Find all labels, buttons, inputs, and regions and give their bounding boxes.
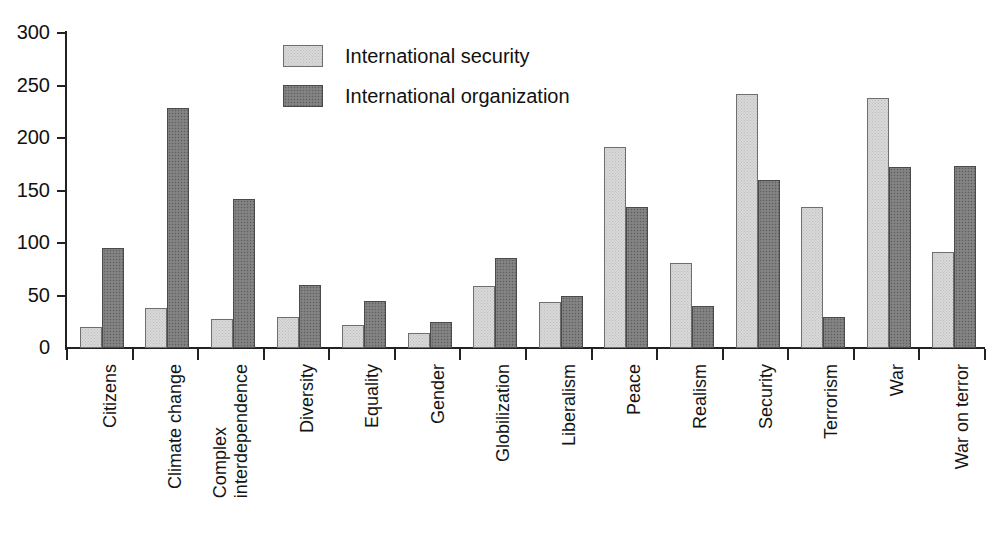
x-tick-mark <box>787 349 789 360</box>
bar <box>670 263 692 348</box>
x-category-label: Equality <box>362 364 382 428</box>
y-tick-mark <box>57 32 66 34</box>
x-tick-mark <box>656 349 658 360</box>
bar <box>604 147 626 348</box>
x-tick-mark <box>263 349 265 360</box>
x-tick-mark <box>66 349 68 360</box>
y-tick-label: 100 <box>2 232 50 252</box>
y-tick-label: 300 <box>2 22 50 42</box>
x-tick-mark <box>328 349 330 360</box>
x-category-label: Peace <box>624 364 644 415</box>
bar <box>495 258 517 348</box>
bar <box>342 325 364 348</box>
x-category-label-line: Globilization <box>493 364 513 462</box>
bar <box>430 322 452 348</box>
x-category-label-line: Peace <box>624 364 644 415</box>
bar <box>277 317 299 349</box>
x-category-label-line: Citizens <box>100 364 120 428</box>
legend-label-international-security: International security <box>345 45 530 67</box>
x-category-label-line: War on terror <box>952 364 972 469</box>
x-category-label-line: Realism <box>690 364 710 429</box>
x-category-label: Globilization <box>493 364 513 462</box>
x-category-label: War on terror <box>952 364 972 469</box>
x-category-label: Security <box>756 364 776 429</box>
bar <box>889 167 911 348</box>
x-category-label-line: Liberalism <box>559 364 579 446</box>
bar <box>364 301 386 348</box>
x-category-label-line: Security <box>756 364 776 429</box>
x-category-label-line: War <box>887 364 907 396</box>
chart-legend: International security International org… <box>283 41 613 121</box>
x-tick-mark <box>984 349 986 360</box>
bar <box>932 252 954 348</box>
x-category-label-line: Equality <box>362 364 382 428</box>
x-tick-mark <box>853 349 855 360</box>
y-tick-label: 50 <box>2 285 50 305</box>
bar <box>539 302 561 348</box>
bar <box>954 166 976 348</box>
y-tick-mark <box>57 295 66 297</box>
x-category-label-line: Terrorism <box>821 364 841 439</box>
y-tick-label: 200 <box>2 127 50 147</box>
bar <box>102 248 124 348</box>
bar <box>867 98 889 348</box>
y-tick-mark <box>57 190 66 192</box>
x-category-label: Climate change <box>165 364 185 489</box>
bar <box>801 207 823 348</box>
y-tick-label: 150 <box>2 180 50 200</box>
y-axis-tick-labels: 050100150200250300 <box>0 0 50 535</box>
bar <box>473 286 495 348</box>
x-tick-mark <box>132 349 134 360</box>
bar <box>211 319 233 348</box>
bar <box>145 308 167 348</box>
y-tick-mark <box>57 137 66 139</box>
legend-label-international-organization: International organization <box>345 85 570 107</box>
x-tick-mark <box>525 349 527 360</box>
bar <box>167 108 189 348</box>
bar <box>233 199 255 348</box>
x-category-label: Gender <box>428 364 448 424</box>
x-category-label-line: Gender <box>428 364 448 424</box>
bar-chart: 050100150200250300 CitizensClimate chang… <box>0 0 1000 535</box>
x-tick-mark <box>197 349 199 360</box>
bar <box>736 94 758 348</box>
x-category-label: Realism <box>690 364 710 429</box>
x-category-label: War <box>887 364 907 396</box>
bar <box>626 207 648 348</box>
x-category-label: Diversity <box>297 364 317 433</box>
x-category-label-line: Diversity <box>297 364 317 433</box>
bar <box>823 317 845 349</box>
x-category-label-line: Climate change <box>165 364 185 489</box>
y-tick-mark <box>57 85 66 87</box>
bar <box>299 285 321 348</box>
legend-swatch-international-organization <box>283 85 323 107</box>
bar <box>408 333 430 348</box>
x-category-label-line: Complex <box>210 427 230 498</box>
x-tick-mark <box>591 349 593 360</box>
x-tick-mark <box>394 349 396 360</box>
x-tick-mark <box>918 349 920 360</box>
x-category-label: Terrorism <box>821 364 841 439</box>
x-category-label: Complexinterdependence <box>210 364 252 498</box>
x-category-label-line: interdependence <box>231 364 252 498</box>
bar <box>561 296 583 349</box>
y-tick-label: 0 <box>2 337 50 357</box>
bar <box>692 306 714 348</box>
y-tick-label: 250 <box>2 75 50 95</box>
x-tick-mark <box>459 349 461 360</box>
x-tick-mark <box>722 349 724 360</box>
y-tick-mark <box>57 242 66 244</box>
x-category-label: Citizens <box>100 364 120 428</box>
bar <box>758 180 780 348</box>
bar <box>80 327 102 348</box>
legend-entry-international-organization: International organization <box>283 81 613 111</box>
legend-entry-international-security: International security <box>283 41 613 71</box>
legend-swatch-international-security <box>283 45 323 67</box>
x-category-label: Liberalism <box>559 364 579 446</box>
